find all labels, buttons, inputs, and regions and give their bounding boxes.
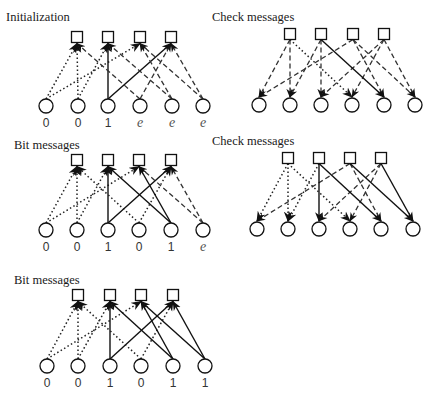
edge-dotted	[46, 44, 140, 100]
edge-dotted	[288, 164, 319, 222]
bit-node	[312, 222, 326, 236]
bit-node	[252, 98, 266, 112]
bit-node	[71, 99, 85, 113]
bit-node	[164, 223, 178, 237]
bit-node	[39, 223, 53, 237]
edge-dashed	[384, 40, 415, 98]
bit-node	[196, 223, 210, 237]
bit-node	[374, 222, 388, 236]
edge-dashed	[259, 40, 290, 98]
edge-dashed	[139, 167, 203, 224]
edge-dotted	[77, 44, 78, 100]
edge-solid	[350, 164, 413, 222]
bit-node	[250, 222, 264, 236]
edge-solid	[139, 167, 171, 224]
bit-node	[101, 223, 115, 237]
check-node	[348, 29, 359, 40]
edge-dotted	[78, 302, 110, 360]
edge-solid	[381, 164, 413, 222]
edge-dotted	[78, 44, 108, 100]
check-node	[72, 155, 83, 166]
bit-value-label: 0	[74, 240, 81, 254]
edge-dashed	[290, 40, 321, 98]
panel-title: Check messages	[212, 134, 294, 148]
bit-value-label: 1	[168, 240, 175, 254]
panel-title: Check messages	[212, 10, 294, 24]
bit-value-label: 1	[105, 116, 112, 130]
bit-node	[132, 223, 146, 237]
check-node	[314, 153, 325, 164]
check-node	[105, 290, 116, 301]
check-node	[166, 155, 177, 166]
edge-dotted	[257, 164, 288, 222]
check-node	[72, 32, 83, 43]
panel-graph	[252, 29, 422, 113]
bit-value-label: e	[137, 115, 143, 130]
check-node	[379, 29, 390, 40]
check-node	[376, 153, 387, 164]
edge-dotted	[77, 167, 108, 224]
bit-node	[408, 98, 422, 112]
check-node	[168, 290, 179, 301]
panel-check-messages-1: Check messages	[212, 10, 422, 112]
edge-solid	[173, 302, 205, 360]
panel-graph: 001011	[40, 290, 212, 391]
bit-node	[133, 99, 147, 113]
check-node	[135, 32, 146, 43]
bit-node	[39, 99, 53, 113]
check-node	[103, 32, 114, 43]
check-node	[73, 290, 84, 301]
bit-value-label: 1	[105, 240, 112, 254]
bit-node	[406, 222, 420, 236]
check-node	[345, 153, 356, 164]
panel-bit-messages-1: Bit messages 00101e	[14, 138, 210, 254]
bit-node	[101, 99, 115, 113]
bit-node	[345, 98, 359, 112]
bit-value-label: 0	[75, 376, 82, 390]
edge-dashed	[140, 44, 203, 100]
edge-solid	[141, 302, 173, 360]
bit-value-label: 0	[43, 240, 50, 254]
tanner-graph-decoding-diagram: Initialization 001eee Check messages Bit…	[0, 0, 437, 404]
edge-dashed	[353, 40, 415, 98]
bit-node	[70, 223, 84, 237]
bit-value-label: 0	[138, 376, 145, 390]
panel-graph	[250, 153, 420, 237]
bit-node	[196, 99, 210, 113]
bit-node	[103, 359, 117, 373]
bit-value-label: e	[169, 115, 175, 130]
panel-title: Bit messages	[14, 273, 80, 287]
bit-value-label: 1	[107, 376, 114, 390]
panel-check-messages-2: Check messages	[212, 134, 420, 236]
edge-dotted	[46, 167, 77, 224]
bit-value-label: 1	[170, 376, 177, 390]
bit-node	[166, 359, 180, 373]
check-node	[134, 155, 145, 166]
bit-value-label: e	[200, 115, 206, 130]
bit-node	[134, 359, 148, 373]
panel-title: Bit messages	[14, 138, 80, 152]
bit-node	[165, 99, 179, 113]
check-node	[283, 153, 294, 164]
bit-value-label: 1	[202, 376, 209, 390]
bit-value-label: 0	[44, 376, 51, 390]
bit-value-label: e	[200, 239, 206, 254]
edge-dotted	[46, 44, 77, 100]
bit-node	[283, 98, 297, 112]
bit-node	[71, 359, 85, 373]
check-node	[136, 290, 147, 301]
bit-value-label: 0	[136, 240, 143, 254]
bit-node	[198, 359, 212, 373]
check-node	[166, 32, 177, 43]
bit-node	[343, 222, 357, 236]
bit-node	[314, 98, 328, 112]
bit-node	[377, 98, 391, 112]
panel-title: Initialization	[6, 10, 71, 24]
bit-node	[281, 222, 295, 236]
edge-solid	[141, 302, 205, 360]
bit-value-label: 0	[43, 116, 50, 130]
check-node	[285, 29, 296, 40]
panel-graph: 00101e	[39, 155, 210, 255]
edge-dashed	[171, 44, 203, 100]
edge-dashed	[171, 167, 203, 224]
